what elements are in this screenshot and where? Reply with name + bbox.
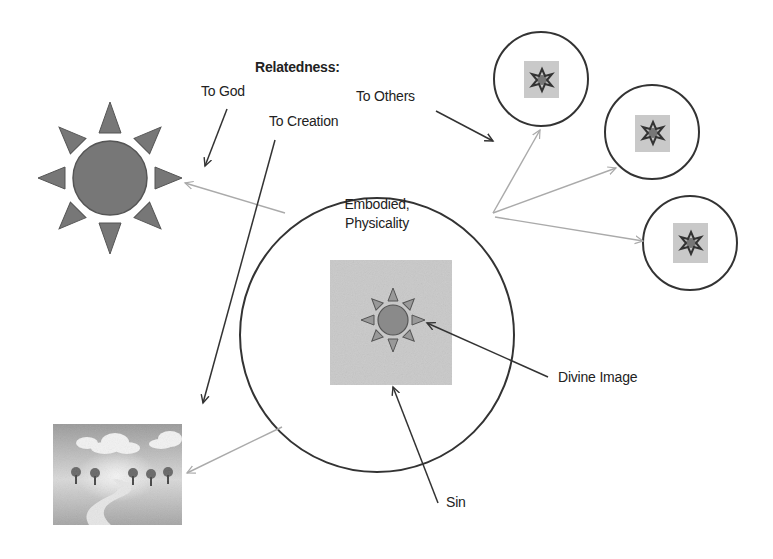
center-circle-line2: Physicality	[330, 214, 424, 233]
to-others-label: To Others	[356, 88, 415, 104]
to-god-label: To God	[201, 83, 245, 99]
diagram-canvas	[0, 0, 773, 559]
center-circle-line1: Embodied,	[330, 195, 424, 214]
arrow-self-to-god	[185, 183, 285, 213]
center-circle-title: Embodied, Physicality	[330, 195, 424, 233]
god-sun-icon	[8, 76, 212, 280]
divine-image-label: Divine Image	[558, 369, 637, 385]
creation-landscape-icon	[53, 424, 182, 525]
other-person-circle-2	[605, 85, 699, 179]
other-person-circle-1	[494, 32, 588, 126]
arrow-self-to-creation	[187, 427, 282, 473]
arrow-self-to-other-2	[493, 168, 616, 213]
sin-label: Sin	[446, 494, 466, 510]
arrow-to-others-label	[436, 111, 493, 141]
to-creation-label: To Creation	[269, 113, 338, 129]
other-person-circle-3	[643, 196, 737, 290]
relatedness-heading: Relatedness:	[255, 59, 340, 75]
arrow-to-god-label	[205, 109, 227, 166]
arrow-self-to-other-1	[493, 130, 540, 213]
arrow-self-to-other-3	[495, 217, 643, 241]
